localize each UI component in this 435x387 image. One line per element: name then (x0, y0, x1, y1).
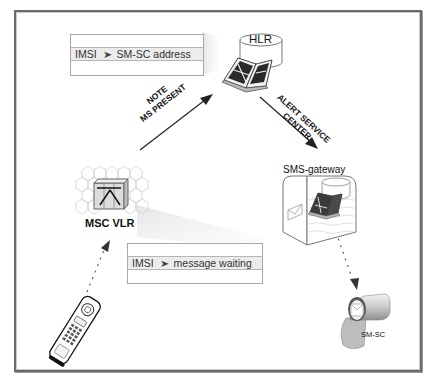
diagram-canvas (0, 0, 435, 387)
open-book-icon (222, 58, 272, 92)
msc-vlr-label: MSC VLR (85, 217, 135, 229)
sm-sc-address-value: SM-SC address (117, 48, 191, 60)
message-waiting-value: message waiting (174, 257, 252, 269)
sms-gateway-icon (283, 176, 356, 245)
msc-switch-icon (94, 179, 128, 209)
imsi-key: IMSI (75, 48, 97, 60)
table-row: IMSI ➤ SM-SC address (71, 48, 203, 61)
hlr-record-table: IMSI ➤ SM-SC address (70, 34, 204, 76)
imsi-key: IMSI (132, 257, 154, 269)
mobile-to-vlr-dotted-arrow (87, 240, 110, 292)
gateway-to-smsc-dotted-arrow (336, 232, 359, 290)
vlr-record-table: IMSI ➤ message waiting (127, 243, 263, 284)
sms-gateway-label: SMS-gateway (283, 164, 345, 175)
right-arrow-icon: ➤ (159, 258, 168, 269)
right-arrow-icon: ➤ (102, 49, 111, 60)
hlr-label: HLR (249, 33, 272, 45)
mobile-phone-icon (46, 294, 102, 367)
table-row-blank (71, 35, 203, 48)
hlr-projection-shade (202, 32, 218, 75)
table-row-blank (128, 244, 262, 257)
sm-sc-label: SM-SC (361, 330, 385, 339)
sm-sc-mailbox-icon (341, 294, 390, 349)
table-row-blank (71, 61, 203, 73)
table-row: IMSI ➤ message waiting (128, 257, 262, 270)
table-row-blank (128, 270, 262, 282)
